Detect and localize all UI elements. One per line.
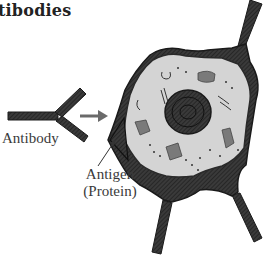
bottom-left-process	[152, 200, 172, 254]
antibody-label: Antibody	[2, 130, 59, 147]
antigen-label-line1: Antigen	[70, 166, 150, 183]
upper-process	[238, 0, 262, 46]
antigen-label: Antigen (Protein)	[70, 166, 150, 200]
nucleus	[165, 90, 211, 134]
antigen-pointer	[98, 139, 116, 166]
cell-diagram	[0, 0, 276, 255]
binding-arrow	[80, 110, 108, 122]
bottom-right-process	[232, 193, 262, 242]
antigen-label-line2: (Protein)	[70, 183, 150, 200]
